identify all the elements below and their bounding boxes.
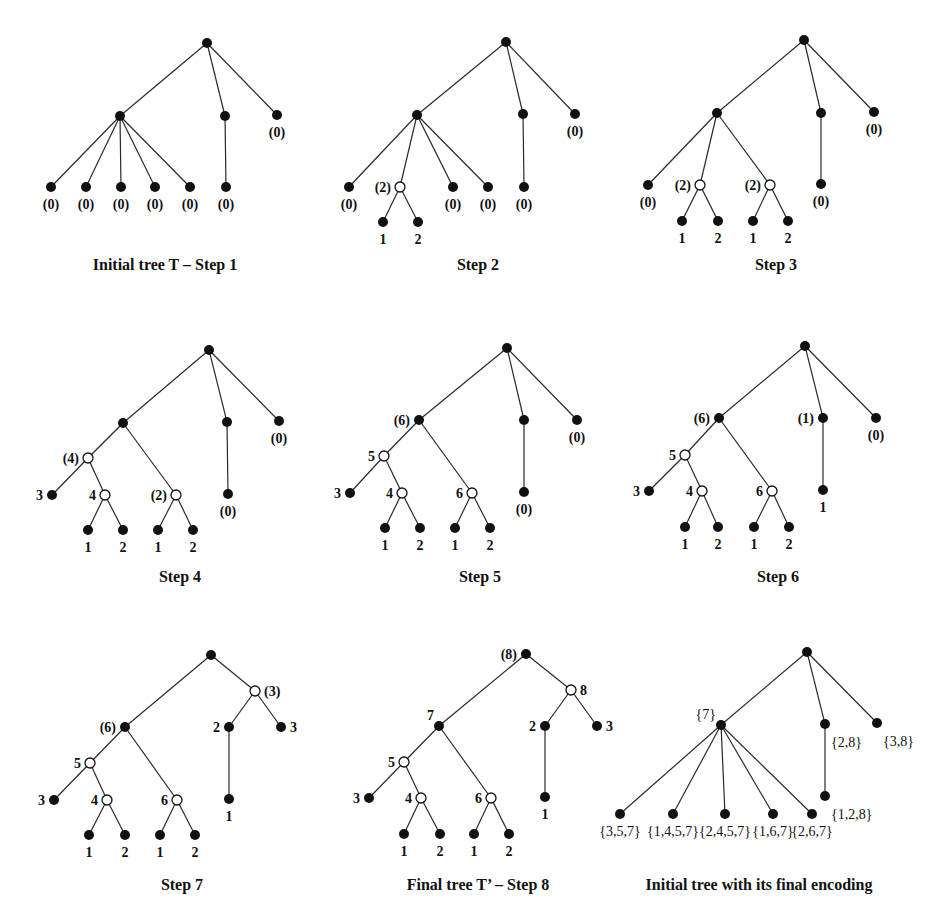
node-label: (0)	[813, 194, 830, 210]
panel-caption: Final tree T’ – Step 8	[407, 876, 550, 894]
node-label: {1,6,7}	[752, 824, 793, 839]
filled-node	[768, 809, 778, 819]
node-label: {3,8}	[883, 734, 914, 749]
node-label: 1	[751, 537, 758, 552]
filled-node	[820, 719, 830, 729]
tree-edge	[700, 185, 718, 221]
node-label: 8	[580, 683, 587, 698]
node-label: 7	[427, 708, 434, 723]
filled-node	[83, 525, 93, 535]
filled-node	[800, 341, 810, 351]
node-label: 2	[785, 231, 792, 246]
tree-edge	[88, 423, 123, 458]
panel-caption: Step 5	[459, 568, 501, 586]
tree-edge	[545, 690, 571, 726]
tree-edge	[400, 115, 417, 187]
node-label: (2)	[151, 488, 168, 504]
node-label: 3	[334, 486, 341, 501]
node-label: (1)	[798, 411, 815, 427]
tree-panel-step7: (6)(3)23534126121Step 7	[38, 650, 297, 894]
node-label: (0)	[516, 502, 533, 518]
tree-edge	[417, 42, 506, 115]
filled-node	[820, 791, 830, 801]
tree-edge	[120, 116, 155, 187]
node-label: {1,2,8}	[831, 807, 872, 822]
panel-caption: Step 7	[161, 876, 203, 894]
tree-edge	[120, 116, 121, 187]
node-label: 2	[786, 537, 793, 552]
filled-node	[84, 830, 94, 840]
filled-node	[344, 182, 354, 192]
node-label: 4	[386, 486, 393, 501]
node-label: (2)	[745, 178, 762, 194]
tree-edge	[123, 350, 209, 423]
tree-edge	[805, 346, 823, 418]
filled-node	[448, 182, 458, 192]
node-label: (0)	[569, 430, 586, 446]
tree-edge	[804, 40, 821, 113]
open-node	[395, 182, 405, 192]
tree-edge	[400, 187, 418, 222]
filled-node	[190, 830, 200, 840]
filled-node	[413, 217, 423, 227]
open-node	[172, 795, 182, 805]
filled-node	[748, 216, 758, 226]
open-node	[397, 488, 407, 498]
filled-node	[518, 109, 528, 119]
filled-node	[572, 415, 582, 425]
node-label: (6)	[100, 720, 117, 736]
node-label: 3	[38, 793, 45, 808]
tree-panel-step8: (8)7823534126121Final tree T’ – Step 8	[353, 647, 613, 894]
tree-edge	[229, 691, 255, 727]
tree-edge	[649, 455, 685, 491]
tree-edge	[176, 495, 193, 530]
panel-caption: Step 4	[159, 568, 201, 586]
tree-edge	[648, 113, 717, 185]
node-label: (2)	[675, 178, 692, 194]
filled-node	[540, 721, 550, 731]
node-label: 1	[382, 538, 389, 553]
filled-node	[712, 108, 722, 118]
node-label: 1	[820, 500, 827, 515]
node-label: 2	[715, 537, 722, 552]
tree-edge	[772, 491, 789, 527]
tree-transformation-figure: (0)(0)(0)(0)(0)(0)(0)Initial tree T – St…	[0, 0, 942, 921]
node-label: 4	[89, 488, 96, 503]
node-label: 2	[415, 232, 422, 247]
node-label: 2	[506, 844, 513, 859]
node-label: 3	[290, 720, 297, 735]
filled-node	[153, 525, 163, 535]
tree-edge	[107, 800, 125, 835]
tree-panel-step4: (0)(4)3412(2)12(0)Step 4	[36, 345, 287, 586]
open-node	[85, 758, 95, 768]
filled-node	[434, 721, 444, 731]
filled-node	[415, 523, 425, 533]
tree-edge	[439, 654, 526, 726]
tree-edge	[349, 115, 417, 187]
tree-edge	[523, 114, 524, 187]
filled-node	[716, 720, 726, 730]
node-label: 6	[475, 791, 482, 806]
open-node	[100, 490, 110, 500]
tree-edge	[717, 113, 770, 185]
panel-caption: Initial tree T – Step 1	[93, 256, 237, 274]
tree-edge	[719, 346, 805, 418]
node-label: 2	[122, 845, 129, 860]
filled-node	[521, 649, 531, 659]
panel-caption: Step 6	[757, 568, 799, 586]
tree-edge	[673, 725, 721, 814]
tree-edge	[721, 652, 807, 725]
node-label: 1	[679, 231, 686, 246]
filled-node	[807, 809, 817, 819]
filled-node	[799, 35, 809, 45]
node-label: 2	[437, 844, 444, 859]
filled-node	[435, 829, 445, 839]
node-label: 2	[192, 845, 199, 860]
node-label: (0)	[271, 431, 288, 447]
tree-edge	[805, 346, 876, 418]
filled-node	[504, 829, 514, 839]
node-label: (0)	[182, 197, 199, 213]
filled-node	[713, 216, 723, 226]
node-label: 1	[85, 540, 92, 555]
tree-edge	[717, 40, 804, 113]
